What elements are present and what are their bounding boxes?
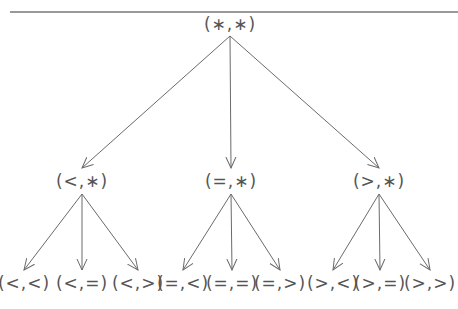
node-eq-any: (=,∗) [205,171,257,191]
edge-root-gt [230,36,379,168]
node-gt-eq: (>,=) [354,273,406,293]
node-lt-eq: (<,=) [56,273,108,293]
node-gt-gt: (>,>) [404,273,456,293]
node-lt-any: (<,∗) [56,171,108,191]
diagram-edges [0,0,458,309]
edge-eq-eq_lt [183,194,231,270]
node-eq-lt: (=,<) [157,273,209,293]
edge-lt-lt_lt [24,194,82,270]
edge-gt-gt_gt [379,194,430,270]
node-gt-lt: (>,<) [307,273,359,293]
node-eq-gt: (=,>) [254,273,306,293]
edge-gt-gt_eq [379,194,380,270]
edge-lt-lt_gt [82,194,138,270]
edge-eq-eq_gt [231,194,280,270]
node-lt-lt: (<,<) [0,273,50,293]
node-gt-any: (>,∗) [353,171,405,191]
edge-eq-eq_eq [231,194,232,270]
tree-diagram: (∗,∗) (<,∗) (=,∗) (>,∗) (<,<) (<,=) (<,>… [0,0,458,309]
edge-root-eq [230,36,231,168]
edge-gt-gt_lt [333,194,379,270]
edge-root-lt [82,36,230,168]
node-eq-eq: (=,=) [206,273,258,293]
node-root: (∗,∗) [204,14,256,34]
